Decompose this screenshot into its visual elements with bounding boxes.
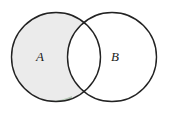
set-b-label: B [111,49,119,64]
venn-diagram-figure: A B [0,0,170,115]
venn-diagram-canvas: A B [0,0,170,115]
set-a-label: A [35,49,44,64]
